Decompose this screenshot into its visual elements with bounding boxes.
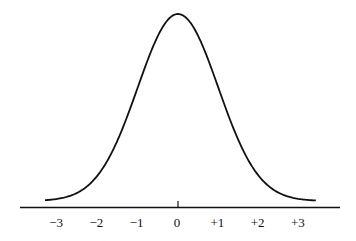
x-tick-label: −2	[89, 215, 103, 230]
x-tick-label: 0	[174, 215, 181, 230]
x-tick-label: −3	[49, 215, 63, 230]
x-tick-label: +3	[291, 215, 305, 230]
x-tick-labels: −3−2−10+1+2+3	[49, 215, 305, 230]
normal-curve	[45, 14, 316, 200]
x-tick-label: +1	[210, 215, 224, 230]
bell-curve-chart: −3−2−10+1+2+3	[0, 0, 356, 241]
x-tick-label: −1	[130, 215, 144, 230]
x-tick-label: +2	[251, 215, 265, 230]
